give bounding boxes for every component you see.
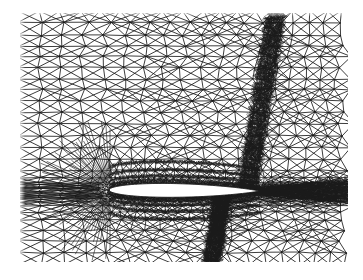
mesh-figure: Unstructured triangular mesh about an ai… <box>0 0 363 280</box>
airfoil-mesh-plot <box>0 0 363 280</box>
